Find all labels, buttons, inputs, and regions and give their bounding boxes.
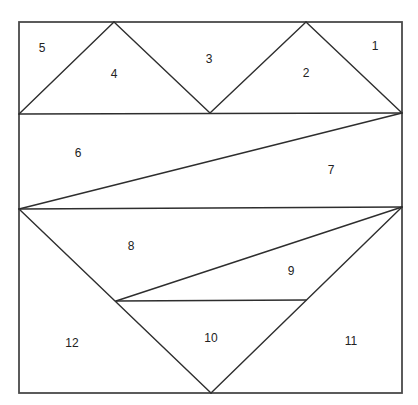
seam-line-middle-diagonal xyxy=(19,113,402,209)
seam-line-inner-horizontal xyxy=(116,300,306,301)
piece-label-7: 7 xyxy=(328,163,335,177)
piece-label-8: 8 xyxy=(128,239,135,253)
piece-labels: 123456789101112 xyxy=(39,39,379,350)
seam-line-middle-band-bottom xyxy=(19,207,402,209)
piece-label-5: 5 xyxy=(39,41,46,55)
quilt-block-diagram: 123456789101112 xyxy=(0,0,418,405)
seam-line-apex4-right xyxy=(114,22,210,113)
seam-line-inner-diagonal xyxy=(116,207,402,301)
seam-line-apex4-left xyxy=(19,22,114,114)
piece-label-3: 3 xyxy=(206,52,213,66)
piece-label-1: 1 xyxy=(372,39,379,53)
piece-label-9: 9 xyxy=(288,264,295,278)
piece-label-4: 4 xyxy=(111,67,118,81)
piece-label-10: 10 xyxy=(204,331,218,345)
seam-line-apex2-right xyxy=(306,22,402,113)
seam-line-apex2-left xyxy=(210,22,306,113)
piece-label-12: 12 xyxy=(65,336,79,350)
piece-label-2: 2 xyxy=(303,66,310,80)
piece-label-11: 11 xyxy=(345,334,358,348)
piece-label-6: 6 xyxy=(75,146,82,160)
